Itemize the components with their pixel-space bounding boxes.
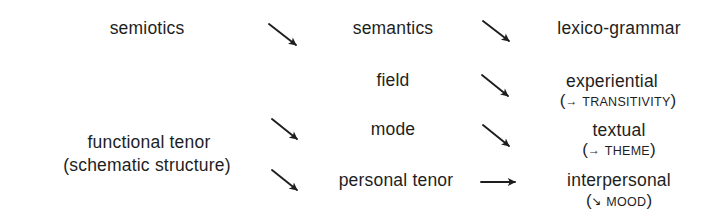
note-text-mood: MOOD bbox=[606, 195, 646, 209]
label-experiential: experiential bbox=[566, 71, 658, 91]
right-arrow-icon: → bbox=[588, 143, 600, 157]
note-open-paren: ( bbox=[582, 140, 588, 159]
label-personal-tenor: personal tenor bbox=[339, 170, 454, 190]
right-arrow-icon: → bbox=[565, 94, 577, 108]
arrow-semiotics-to-semantics-icon bbox=[269, 24, 296, 45]
arrow-schematic-to-personal-tenor-icon bbox=[272, 170, 297, 190]
arrow-field-to-experiential-icon bbox=[482, 75, 508, 96]
note-text-transitivity: TRANSITIVITY bbox=[582, 95, 670, 109]
note-mood: (↘ MOOD) bbox=[586, 191, 652, 212]
note-theme: (→ THEME) bbox=[582, 140, 655, 161]
label-mode: mode bbox=[371, 119, 416, 139]
label-textual: textual bbox=[593, 120, 646, 140]
arrow-functional-tenor-to-mode-icon bbox=[272, 119, 297, 139]
arrow-mode-to-textual-icon bbox=[483, 125, 509, 146]
note-close-paren: ) bbox=[646, 191, 652, 210]
arrow-semantics-to-lexicogrammar-icon bbox=[483, 21, 509, 41]
label-field: field bbox=[376, 70, 409, 90]
down-right-arrow-icon: ↘ bbox=[592, 194, 602, 208]
label-interpersonal: interpersonal bbox=[567, 170, 671, 190]
note-open-paren: ( bbox=[560, 91, 566, 110]
note-transitivity: (→ TRANSITIVITY) bbox=[560, 91, 676, 112]
label-functional-tenor: functional tenor bbox=[88, 132, 211, 152]
note-close-paren: ) bbox=[650, 140, 656, 159]
label-semiotics: semiotics bbox=[110, 18, 185, 38]
label-schematic-structure: (schematic structure) bbox=[63, 155, 231, 175]
note-text-theme: THEME bbox=[605, 144, 650, 158]
note-open-paren: ( bbox=[586, 191, 592, 210]
label-lexico-grammar: lexico-grammar bbox=[557, 18, 680, 38]
note-close-paren: ) bbox=[671, 91, 677, 110]
stratification-diagram: semiotics semantics lexico-grammar funct… bbox=[0, 0, 726, 224]
label-semantics: semantics bbox=[353, 18, 434, 38]
